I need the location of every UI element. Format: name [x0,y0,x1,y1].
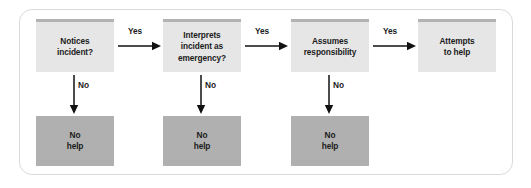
edge-label-no-1: No [78,80,89,90]
node-assumes-responsibility: Assumes responsibility [291,19,369,72]
node-notices-incident: Notices incident? [36,19,114,72]
flowchart-canvas: Notices incident? Interprets incident as… [0,0,531,188]
edge-label-yes-1: Yes [128,26,142,36]
node-interprets-emergency: Interprets incident as emergency? [163,19,241,72]
edge-label-yes-3: Yes [383,26,397,36]
node-label: No help [191,130,214,153]
node-no-help-3: No help [291,116,369,166]
node-label: No help [64,130,87,153]
arrow-yes-2 [245,40,289,52]
edge-label-no-3: No [333,80,344,90]
node-label: Notices incident? [54,36,96,59]
node-label: Attempts to help [436,36,477,59]
edge-label-yes-2: Yes [255,26,269,36]
arrow-yes-3 [373,40,417,52]
node-no-help-1: No help [36,116,114,166]
edge-label-no-2: No [205,80,216,90]
node-no-help-2: No help [163,116,241,166]
node-attempts-to-help: Attempts to help [418,19,496,72]
node-label: Interprets incident as emergency? [175,30,229,64]
arrow-yes-1 [118,40,162,52]
node-label: Assumes responsibility [301,36,360,59]
node-label: No help [319,130,342,153]
